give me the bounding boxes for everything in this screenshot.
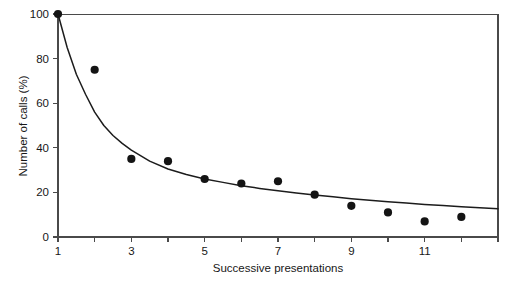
data-point <box>127 155 135 163</box>
x-tick-label-7: 7 <box>275 245 281 257</box>
y-tick-label-0: 0 <box>43 231 49 243</box>
data-point <box>274 177 282 185</box>
data-point <box>347 202 355 210</box>
y-axis-tick-labels: 020406080100 <box>30 8 49 243</box>
x-axis-ticks <box>58 237 498 242</box>
data-point <box>457 213 465 221</box>
y-tick-label-40: 40 <box>36 142 49 154</box>
figure-panel: 020406080100 1357911 Successive presenta… <box>0 0 518 283</box>
x-tick-label-9: 9 <box>348 245 354 257</box>
x-tick-label-11: 11 <box>419 245 431 257</box>
x-axis-title: Successive presentations <box>213 262 344 274</box>
data-point <box>54 10 62 18</box>
y-tick-label-60: 60 <box>36 97 49 109</box>
y-tick-label-80: 80 <box>36 53 49 65</box>
x-tick-label-5: 5 <box>201 245 207 257</box>
x-tick-label-1: 1 <box>55 245 61 257</box>
data-point <box>237 179 245 187</box>
y-tick-label-20: 20 <box>36 186 49 198</box>
plot-frame <box>58 14 499 237</box>
data-points-group <box>54 10 466 226</box>
y-axis-ticks <box>53 14 58 237</box>
data-point <box>384 208 392 216</box>
scatter-plot: 020406080100 1357911 Successive presenta… <box>0 0 518 283</box>
data-point <box>201 175 209 183</box>
y-tick-label-100: 100 <box>30 8 49 20</box>
x-axis-tick-labels: 1357911 <box>55 245 431 257</box>
y-axis-title: Number of calls (%) <box>17 75 29 176</box>
data-point <box>311 191 319 199</box>
data-point <box>421 217 429 225</box>
data-point <box>164 157 172 165</box>
data-point <box>91 66 99 74</box>
x-tick-label-3: 3 <box>128 245 134 257</box>
